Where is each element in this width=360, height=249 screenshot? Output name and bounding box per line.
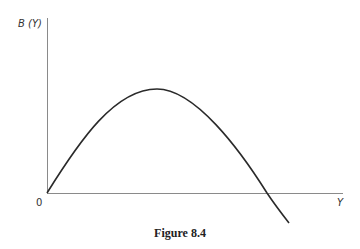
benefit-curve (47, 89, 289, 223)
y-axis-label: B (Y) (18, 18, 42, 29)
origin-label: 0 (36, 197, 42, 208)
figure-caption: Figure 8.4 (0, 226, 360, 241)
figure-diagram: B (Y) 0 Y (0, 0, 360, 249)
x-axis-label: Y (337, 197, 344, 208)
